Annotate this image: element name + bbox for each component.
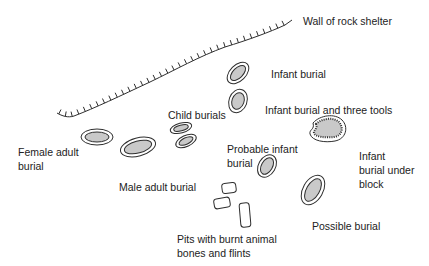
male-adult-burial-marker (118, 134, 157, 161)
infant-burial-under-block-marker (310, 116, 346, 142)
label-probable-infant-burial: Probable infant burial (227, 142, 298, 170)
pits-markers (213, 182, 251, 227)
label-male-adult-burial: Male adult burial (119, 180, 196, 194)
female-adult-burial-marker (81, 129, 113, 145)
label-infant-burial-under-block: Infant burial under block (359, 149, 414, 191)
label-female-adult-burial: Female adult burial (18, 145, 79, 173)
child-burial-marker-2 (174, 131, 199, 150)
rock-shelter-wall (57, 20, 292, 117)
label-infant-burial-tools: Infant burial and three tools (265, 103, 392, 117)
possible-burial-marker (296, 171, 329, 209)
label-infant-burial: Infant burial (271, 67, 326, 81)
label-possible-burial: Possible burial (312, 219, 380, 233)
label-child-burials: Child burials (168, 108, 226, 122)
label-pits: Pits with burnt animal bones and flints (177, 232, 277, 260)
infant-burial-marker (223, 58, 253, 88)
infant-burial-tools-marker (225, 87, 250, 116)
label-wall: Wall of rock shelter (303, 14, 392, 28)
child-burial-marker-1 (169, 120, 193, 135)
